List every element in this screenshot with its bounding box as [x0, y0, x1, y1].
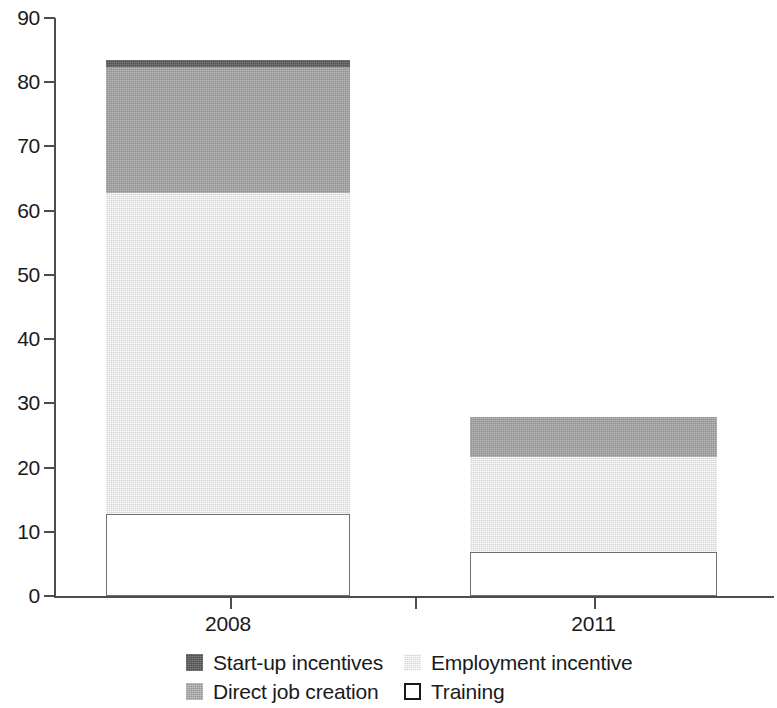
stacked-bar-chart: 0102030405060708090 20082011 Start-up in…: [0, 0, 777, 708]
bar-segment-training-2008[interactable]: [106, 514, 350, 596]
legend-row: Start-up incentivesEmployment incentive: [186, 648, 656, 677]
x-axis-tick-2008: [230, 598, 232, 609]
legend-label: Training: [431, 680, 505, 704]
y-axis-tick: [44, 595, 55, 597]
y-axis-tick-label: 30: [0, 392, 40, 413]
bar-segment-direct-2011[interactable]: [470, 417, 717, 457]
y-axis-tick: [44, 531, 55, 533]
bar-segment-direct-2008[interactable]: [106, 67, 350, 192]
y-axis-line: [54, 18, 56, 598]
y-axis-tick-label-wrap: 70: [0, 135, 40, 156]
bar-segment-employment-2008[interactable]: [106, 193, 350, 514]
y-axis-tick-label-wrap: 10: [0, 521, 40, 542]
y-axis-tick-label-wrap: 20: [0, 457, 40, 478]
y-axis-tick-label: 0: [0, 585, 40, 606]
y-axis-tick: [44, 467, 55, 469]
legend-item-training[interactable]: Training: [404, 677, 505, 706]
legend-swatch-employment-icon: [404, 654, 421, 671]
y-axis-tick-label-wrap: 30: [0, 392, 40, 413]
bar-segment-training-2011[interactable]: [470, 552, 717, 596]
y-axis-tick: [44, 402, 55, 404]
bar-segment-startup-2008[interactable]: [106, 60, 350, 68]
y-axis-tick-label-wrap: 0: [0, 585, 40, 606]
y-axis-tick: [44, 274, 55, 276]
legend-label: Employment incentive: [431, 651, 632, 675]
legend-label: Direct job creation: [213, 680, 378, 704]
x-axis-tick-2011: [594, 598, 596, 609]
y-axis-tick: [44, 210, 55, 212]
y-axis-tick-label: 40: [0, 328, 40, 349]
x-axis-tick-mid: [415, 598, 417, 609]
y-axis-tick: [44, 338, 55, 340]
y-axis-tick-label: 10: [0, 521, 40, 542]
y-axis-tick: [44, 145, 55, 147]
legend-swatch-direct-icon: [186, 683, 203, 700]
legend-label: Start-up incentives: [213, 651, 383, 675]
y-axis-tick-label: 20: [0, 457, 40, 478]
x-axis-label-2008: 2008: [106, 612, 350, 636]
legend-row: Direct job creationTraining: [186, 677, 656, 706]
plot-area: 0102030405060708090 20082011: [0, 0, 777, 640]
y-axis-tick: [44, 17, 55, 19]
y-axis-tick-label: 70: [0, 135, 40, 156]
y-axis-tick-label-wrap: 90: [0, 7, 40, 28]
y-axis-tick-label-wrap: 50: [0, 264, 40, 285]
legend-item-direct[interactable]: Direct job creation: [186, 677, 378, 706]
y-axis-tick-label-wrap: 60: [0, 200, 40, 221]
legend-item-startup[interactable]: Start-up incentives: [186, 648, 383, 677]
bar-group-2011: [470, 0, 717, 596]
y-axis-tick-label: 60: [0, 200, 40, 221]
y-axis-tick-label-wrap: 40: [0, 328, 40, 349]
y-axis-tick-label: 80: [0, 71, 40, 92]
chart-legend: Start-up incentivesEmployment incentiveD…: [186, 648, 656, 706]
bar-segment-employment-2011[interactable]: [470, 457, 717, 552]
x-axis-label-2011: 2011: [470, 612, 717, 636]
y-axis-tick-label-wrap: 80: [0, 71, 40, 92]
bar-group-2008: [106, 0, 350, 596]
legend-swatch-training-icon: [404, 683, 421, 700]
x-axis-line: [54, 596, 774, 598]
legend-item-employment[interactable]: Employment incentive: [404, 648, 632, 677]
y-axis-tick-label: 50: [0, 264, 40, 285]
legend-swatch-startup-icon: [186, 654, 203, 671]
y-axis-tick-label: 90: [0, 7, 40, 28]
y-axis-tick: [44, 81, 55, 83]
